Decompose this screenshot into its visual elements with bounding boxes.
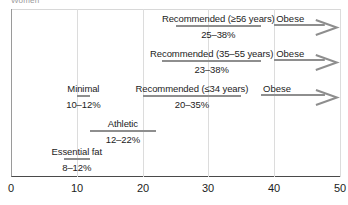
- range-value: 25–38%: [201, 29, 235, 40]
- range-row: Recommended (35–55 years)23–38%: [162, 48, 261, 80]
- range-value: 12–22%: [106, 134, 140, 145]
- range-value: 10–12%: [66, 99, 100, 110]
- chart-caption: Women: [11, 0, 39, 5]
- obese-open-arrow-icon: [261, 89, 338, 111]
- gridline-50: [340, 9, 341, 177]
- x-axis-tick-label-0: 0: [8, 182, 14, 194]
- x-axis-tick-label-10: 10: [71, 182, 83, 194]
- range-value: 8–12%: [62, 162, 91, 173]
- range-label: Recommended (35–55 years): [150, 48, 273, 59]
- x-axis-tick-label-40: 40: [268, 182, 280, 194]
- range-bar: [64, 158, 90, 160]
- range-bar: [77, 95, 90, 97]
- range-row: Minimal10–12%: [77, 83, 90, 115]
- obese-row: Obese: [274, 48, 338, 80]
- obese-open-arrow-icon: [274, 54, 338, 76]
- range-bar: [90, 130, 156, 132]
- x-axis-tick-label-20: 20: [137, 182, 149, 194]
- range-value: 23–38%: [195, 64, 229, 75]
- range-label: Minimal: [67, 83, 99, 94]
- range-value: 20–35%: [175, 99, 209, 110]
- x-axis-tick-label-30: 30: [202, 182, 214, 194]
- obese-row: Obese: [274, 13, 338, 45]
- range-bar: [162, 60, 261, 62]
- range-label: Essential fat: [52, 146, 102, 157]
- range-label: Athletic: [108, 118, 138, 129]
- range-bar: [143, 95, 242, 97]
- range-row: Recommended (≤34 years)20–35%: [143, 83, 242, 115]
- range-row: Essential fat8–12%: [64, 146, 90, 178]
- obese-row: Obese: [261, 83, 338, 115]
- range-label: Recommended (≥56 years): [162, 13, 275, 24]
- range-row: Recommended (≥56 years)25–38%: [176, 13, 262, 45]
- body-fat-range-chart: Women 01020304050 Recommended (≥56 years…: [0, 0, 348, 205]
- range-label: Recommended (≤34 years): [136, 83, 249, 94]
- range-bar: [176, 25, 262, 27]
- x-axis-tick-label-50: 50: [334, 182, 346, 194]
- obese-open-arrow-icon: [274, 19, 338, 41]
